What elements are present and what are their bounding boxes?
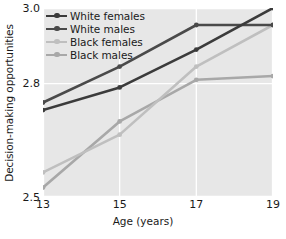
y-axis-title-text: Decision-making opportunities — [3, 24, 15, 182]
legend-item-label: White males — [67, 23, 135, 35]
legend-item-label: Black males — [67, 49, 133, 61]
x-axis-tick-labels: 13151719 — [43, 199, 273, 215]
data-point-marker — [194, 77, 199, 82]
legend-item[interactable]: White females — [46, 9, 166, 22]
legend-line-icon — [46, 22, 67, 35]
data-point-marker — [117, 64, 122, 69]
legend-item-label: White females — [67, 10, 145, 22]
x-axis-tick-label: 15 — [113, 199, 127, 211]
y-axis-tick-label: 2.8 — [16, 78, 40, 89]
legend-line-icon — [46, 9, 67, 22]
series-line — [43, 76, 273, 188]
data-point-marker — [194, 23, 199, 28]
chart-legend: White femalesWhite malesBlack femalesBla… — [46, 9, 166, 61]
data-point-marker — [194, 47, 199, 52]
x-axis-tick-label: 13 — [36, 199, 50, 211]
y-axis-tick-label: 3.0 — [16, 3, 40, 14]
x-axis-tick-label: 17 — [189, 199, 203, 211]
legend-item[interactable]: Black females — [46, 35, 166, 48]
legend-line-icon — [46, 48, 67, 61]
legend-item-label: Black females — [67, 36, 143, 48]
data-point-marker — [117, 132, 122, 137]
data-point-marker — [194, 64, 199, 69]
data-point-marker — [117, 85, 122, 90]
data-point-marker — [117, 119, 122, 124]
x-axis-title-text: Age (years) — [113, 215, 174, 227]
x-axis-title: Age (years) — [0, 215, 286, 227]
legend-item[interactable]: White males — [46, 22, 166, 35]
y-axis-tick-labels: 3.02.82.5 — [14, 0, 40, 205]
data-point-marker — [271, 74, 273, 79]
x-axis-tick-label: 19 — [266, 199, 280, 211]
legend-line-icon — [46, 35, 67, 48]
legend-item[interactable]: Black males — [46, 48, 166, 61]
chart-figure: Decision-making opportunities 3.02.82.5 … — [0, 0, 286, 239]
